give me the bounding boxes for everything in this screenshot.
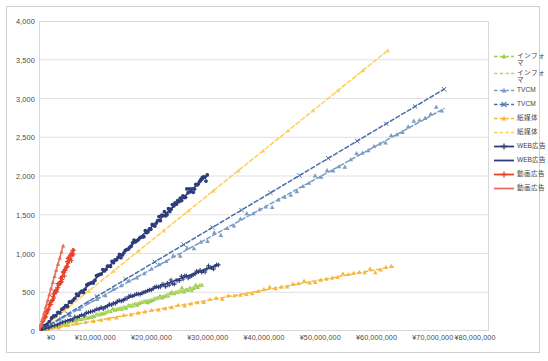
data-point <box>428 112 433 116</box>
legend-swatch-icon <box>494 141 514 152</box>
data-point <box>302 279 307 283</box>
data-point <box>239 208 243 212</box>
data-point <box>238 216 243 220</box>
x-axis-tick-label: ¥50,000,000 <box>300 333 341 342</box>
data-point <box>165 213 169 217</box>
data-point <box>355 139 359 143</box>
x-axis-tick-label: ¥20,000,000 <box>131 333 172 342</box>
y-axis-tick-label: 4,000 <box>0 17 35 26</box>
legend-label: インフォマ <box>517 68 548 84</box>
series-6 <box>39 262 221 331</box>
y-axis-tick-label: 500 <box>0 288 35 297</box>
legend-item[interactable]: 動画広告 <box>494 169 548 182</box>
data-point <box>210 225 214 229</box>
data-point <box>112 269 116 273</box>
data-point <box>212 230 217 234</box>
data-point <box>245 211 250 215</box>
series-2 <box>39 104 444 331</box>
data-point <box>286 128 290 132</box>
data-point <box>354 151 359 155</box>
data-point <box>66 305 70 309</box>
data-point <box>417 118 422 122</box>
data-point <box>54 268 58 272</box>
data-point <box>341 271 346 275</box>
chart-frame: 05001,0001,5002,0002,5003,0003,5004,000 … <box>6 6 540 353</box>
data-point <box>149 266 154 270</box>
y-axis-tick-label: 2,500 <box>0 133 35 142</box>
data-point <box>262 287 267 291</box>
data-point <box>205 239 210 243</box>
data-point <box>59 250 63 254</box>
legend-swatch-icon <box>494 99 514 110</box>
data-point <box>61 244 65 248</box>
data-point <box>159 219 163 223</box>
data-point <box>219 233 224 237</box>
legend-item[interactable]: TVCM <box>494 85 548 98</box>
legend-item[interactable]: WEB広告 <box>494 141 548 154</box>
legend-item[interactable]: WEB広告 <box>494 155 548 168</box>
data-point <box>149 227 153 231</box>
legend-item[interactable]: TVCM <box>494 99 548 112</box>
data-point <box>386 48 390 52</box>
x-axis-labels: ¥0¥10,000,000¥20,000,000¥30,000,000¥40,0… <box>39 333 489 351</box>
series-5 <box>39 48 390 331</box>
y-axis-tick-label: 0 <box>0 327 35 336</box>
legend-swatch-icon <box>494 127 514 138</box>
data-point <box>83 287 87 291</box>
y-axis-tick-label: 3,000 <box>0 94 35 103</box>
data-point <box>180 199 184 203</box>
data-point <box>191 190 195 194</box>
chart-canvas <box>39 21 489 331</box>
legend-label: WEB広告 <box>517 141 548 149</box>
data-point <box>45 323 49 327</box>
legend-label: 紙媒体 <box>517 113 548 121</box>
data-point <box>413 104 417 108</box>
legend-swatch-icon <box>494 68 514 79</box>
legend-item[interactable]: 紙媒体 <box>494 113 548 126</box>
x-axis-tick-label: ¥60,000,000 <box>356 333 397 342</box>
data-point <box>51 280 55 284</box>
y-axis-labels: 05001,0001,5002,0002,5003,0003,5004,000 <box>0 21 35 331</box>
data-point <box>389 264 394 268</box>
legend-item[interactable]: インフォマ <box>494 68 548 84</box>
data-point <box>205 173 209 177</box>
legend-swatch-icon <box>494 155 514 166</box>
data-point <box>184 195 188 199</box>
data-point <box>204 179 208 183</box>
chart-legend: インフォマインフォマTVCMTVCM紙媒体紙媒体WEB広告WEB広告動画広告動画… <box>494 51 548 197</box>
data-point <box>267 285 272 289</box>
y-axis-tick-label: 1,000 <box>0 249 35 258</box>
data-point <box>412 119 417 123</box>
data-point <box>153 260 157 264</box>
legend-item[interactable]: 動画広告 <box>494 183 548 196</box>
data-point <box>82 291 86 295</box>
data-point <box>49 286 53 290</box>
data-point <box>129 244 133 248</box>
data-point <box>109 265 113 269</box>
data-point <box>214 296 219 300</box>
data-point <box>169 207 173 211</box>
data-point <box>52 274 56 278</box>
data-point <box>226 293 231 297</box>
data-point <box>313 173 318 177</box>
data-point <box>270 205 275 209</box>
plot-wrapper: 05001,0001,5002,0002,5003,0003,5004,000 … <box>39 21 489 331</box>
data-point <box>368 266 373 270</box>
legend-item[interactable]: 紙媒体 <box>494 127 548 140</box>
legend-swatch-icon <box>494 85 514 96</box>
data-point <box>73 296 77 300</box>
data-point <box>346 272 351 276</box>
data-point <box>93 279 97 283</box>
series-4 <box>39 264 394 331</box>
legend-label: WEB広告 <box>517 155 548 163</box>
legend-item[interactable]: インフォマ <box>494 51 548 67</box>
legend-label: TVCM <box>517 85 548 93</box>
data-point <box>104 268 108 272</box>
data-point <box>434 104 439 108</box>
legend-swatch-icon <box>494 113 514 124</box>
legend-label: 紙媒体 <box>517 127 548 135</box>
x-axis-tick-label: ¥0 <box>47 333 55 342</box>
data-point <box>193 187 197 191</box>
data-point <box>297 173 301 177</box>
legend-label: TVCM <box>517 99 548 107</box>
